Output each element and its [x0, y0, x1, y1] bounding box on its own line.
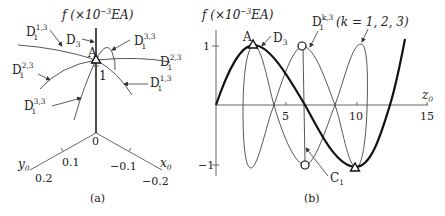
label-d1-33-lower: D3,31: [24, 97, 81, 116]
curve-d1-13: [18, 45, 132, 95]
panel-b: f (×10−3EA) 1 −1 5 10 15 z0 A D3 Dk,31(k…: [198, 7, 434, 205]
z0-axis-label: z0: [421, 88, 433, 104]
x0-tick-neg0.1: −0.1: [110, 160, 137, 173]
origin-label: 0: [92, 135, 99, 148]
svg-text:D2,31: D2,31: [160, 53, 182, 72]
x0-tick-neg0.2: −0.2: [142, 175, 169, 188]
label-dk3-b: Dk,31(k = 1, 2, 3): [310, 13, 409, 47]
panel-a-axis-label: f (×10−3EA): [61, 7, 134, 22]
x-tick-15: 15: [420, 110, 434, 123]
y-tick-1: 1: [203, 40, 210, 53]
curve-d1-k3-loop: [243, 45, 302, 168]
y0-tick-0.1: 0.1: [62, 156, 80, 169]
label-d1-23-left: D2,31: [12, 61, 50, 80]
svg-text:Dk,31(k = 1, 2, 3): Dk,31(k = 1, 2, 3): [312, 13, 409, 32]
label-d1-13-lower: D1,31: [124, 74, 172, 93]
svg-text:D3: D3: [273, 31, 288, 47]
circle-marker-bottom: [301, 161, 309, 169]
curve-d1-k3-right: [305, 44, 367, 167]
caption-b: (b): [304, 192, 320, 205]
svg-text:D3,31: D3,31: [134, 32, 156, 51]
x0-axis-label: x0: [160, 156, 172, 172]
label-d1-23-right: D2,31: [160, 53, 182, 72]
panel-b-axis-label: f (×10−3EA): [201, 7, 274, 22]
caption-a: (a): [90, 192, 105, 205]
curve-d1-k3-mid: [302, 46, 356, 167]
svg-text:C1: C1: [330, 171, 344, 187]
label-d3-b: D3: [262, 31, 288, 47]
x-tick-10: 10: [349, 110, 363, 123]
figure: f (×10−3EA) A 1 0 0.1 0.2 −0.1 −0.2 y0 x…: [0, 0, 445, 216]
label-c1-b: C1: [306, 148, 344, 187]
panel-a: f (×10−3EA) A 1 0 0.1 0.2 −0.1 −0.2 y0 x…: [12, 7, 182, 205]
y-tick-neg1: −1: [198, 159, 214, 172]
y0-axis-label: y0: [17, 157, 30, 173]
point-a-label: A: [87, 46, 97, 60]
tick-one-label: 1: [99, 69, 107, 83]
svg-text:D3,31: D3,31: [24, 97, 46, 116]
label-d1-13-upper: D1,31: [26, 23, 62, 46]
y0-tick-0.2: 0.2: [35, 172, 53, 185]
svg-text:D2,31: D2,31: [12, 61, 34, 80]
x-tick-5: 5: [282, 110, 289, 123]
circle-marker-top: [298, 42, 306, 50]
point-a-label-b: A: [242, 30, 252, 44]
svg-text:D1,31: D1,31: [26, 23, 48, 42]
label-d1-33-upper: D3,31: [112, 32, 156, 51]
svg-text:D1,31: D1,31: [150, 74, 172, 93]
svg-text:D3: D3: [66, 33, 81, 49]
